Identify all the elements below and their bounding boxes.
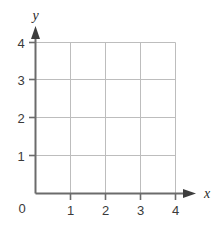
y-tick-label-1: 1 [17, 149, 24, 164]
x-axis-arrowhead-icon [183, 189, 196, 198]
y-tick-label-4: 4 [17, 36, 24, 51]
y-tick-label-2: 2 [17, 111, 24, 126]
x-tick-label-2: 2 [102, 203, 109, 218]
origin-tick-label: 0 [18, 201, 25, 216]
plot-area: 0 1 2 3 4 1 2 3 4 y x [0, 0, 223, 234]
x-axis-label: x [203, 186, 211, 201]
x-tick-label-1: 1 [67, 203, 74, 218]
y-axis-arrowhead-icon [31, 26, 40, 39]
y-axis-label: y [30, 8, 39, 23]
coordinate-grid-figure: 0 1 2 3 4 1 2 3 4 y x [0, 0, 223, 234]
x-tick-label-4: 4 [172, 203, 179, 218]
x-tick-label-3: 3 [137, 203, 144, 218]
y-tick-label-3: 3 [17, 73, 24, 88]
